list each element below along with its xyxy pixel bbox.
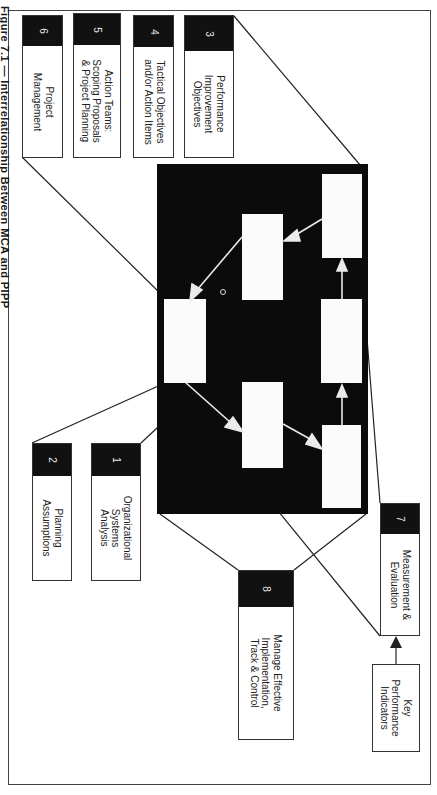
box-4-label: Tactical Objectives and/or Action Items: [142, 59, 165, 145]
box-organizational-systems-analysis: 1 Organizational Systems Analysis: [91, 443, 141, 581]
box-7-label: Measurement & Evaluation: [389, 549, 412, 620]
box-performance-improvement-objectives: 3 Performance Improvement Objectives: [184, 15, 234, 158]
box-2-label: Planning Assumptions: [41, 499, 64, 556]
box-1-label: Organizational Systems Analysis: [99, 496, 134, 560]
box-5-label: Action Teams: Scoping Proposals & Projec…: [80, 59, 115, 142]
central-process-panel: [157, 164, 368, 514]
inner-arrows: [157, 164, 368, 514]
arrow-kpi-to-measurement: [390, 636, 402, 648]
box-8-number: 8: [239, 571, 293, 607]
box-3-label: Performance Improvement Objectives: [192, 75, 227, 133]
box-6-label: Project Management: [31, 72, 54, 130]
box-7-number: 7: [381, 504, 419, 534]
box-8-label: Manage Effective Implementation, Track &…: [249, 634, 284, 711]
box-project-management: 6 Project Management: [22, 15, 63, 158]
box-planning-assumptions: 2 Planning Assumptions: [32, 443, 72, 581]
kpi-label: Key Performance Indicators: [379, 679, 414, 736]
box-4-number: 4: [134, 16, 173, 47]
box-tactical-objectives: 4 Tactical Objectives and/or Action Item…: [133, 15, 174, 158]
box-key-performance-indicators: Key Performance Indicators: [372, 664, 420, 752]
box-3-number: 3: [185, 16, 233, 51]
box-action-teams: 5 Action Teams: Scoping Proposals & Proj…: [73, 13, 121, 158]
box-manage-implementation: 8 Manage Effective Implementation, Track…: [238, 570, 294, 740]
box-measurement-evaluation: 7 Measurement & Evaluation: [380, 503, 420, 636]
box-2-number: 2: [33, 444, 71, 476]
box-5-number: 5: [74, 14, 120, 45]
box-6-number: 6: [23, 16, 62, 46]
box-1-number: 1: [92, 444, 140, 476]
